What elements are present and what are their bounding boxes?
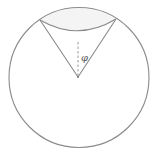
sphere-cone-diagram: φ (0, 0, 158, 152)
apex-point (77, 76, 79, 78)
spherical-cap-region (40, 8, 116, 30)
angle-label-phi: φ (81, 52, 88, 63)
